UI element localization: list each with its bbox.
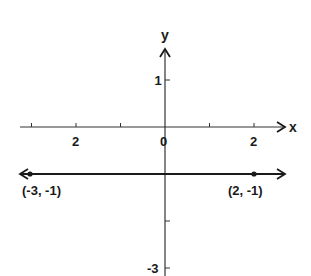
y-axis-label: y (161, 27, 169, 43)
y-tick-label: 1 (155, 73, 162, 88)
coordinate-plane: xy2021-3(-3, -1)(2, -1) (0, 0, 311, 276)
data-series (20, 169, 285, 179)
axes (20, 49, 285, 276)
x-axis-label: x (289, 119, 297, 135)
x-tick-label: 2 (250, 134, 257, 149)
data-point (251, 171, 256, 176)
y-tick-label: -3 (147, 261, 159, 276)
x-tick-label: 2 (72, 134, 79, 149)
labels: xy2021-3(-3, -1)(2, -1) (22, 27, 297, 276)
point-label: (-3, -1) (22, 183, 61, 198)
data-point (27, 171, 32, 176)
x-tick-label: 0 (160, 134, 167, 149)
point-label: (2, -1) (228, 183, 263, 198)
